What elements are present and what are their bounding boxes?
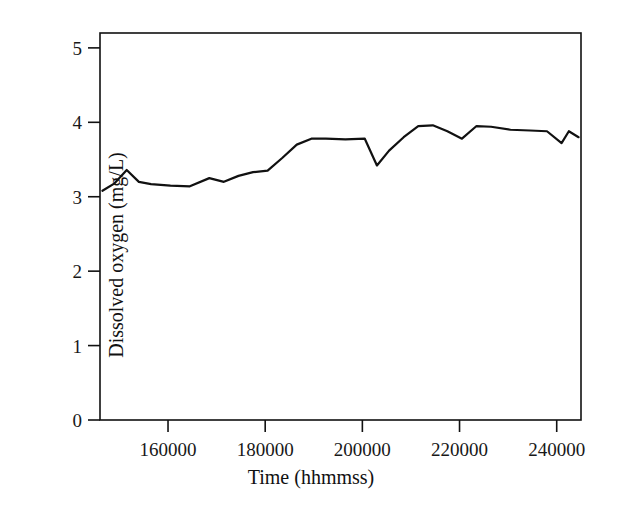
y-tick-label: 1 (73, 336, 83, 355)
plot-area (0, 0, 622, 510)
x-tick-label: 220000 (431, 440, 488, 459)
x-tick-label: 180000 (237, 440, 294, 459)
axes-frame (100, 33, 581, 420)
y-tick-label: 5 (73, 38, 83, 57)
x-tick-label: 200000 (334, 440, 391, 459)
x-tick-label: 160000 (140, 440, 197, 459)
y-tick-label: 4 (73, 113, 83, 132)
y-tick-label: 0 (73, 411, 83, 430)
dissolved-oxygen-time-series-figure: 012345 160000180000200000220000240000 Di… (0, 0, 622, 510)
x-axis-title: Time (hhmmss) (0, 466, 622, 489)
x-tick-label: 240000 (528, 440, 585, 459)
y-axis-title: Dissolved oxygen (mg/L) (105, 152, 128, 358)
y-tick-label: 3 (73, 187, 83, 206)
y-tick-label: 2 (73, 262, 83, 281)
